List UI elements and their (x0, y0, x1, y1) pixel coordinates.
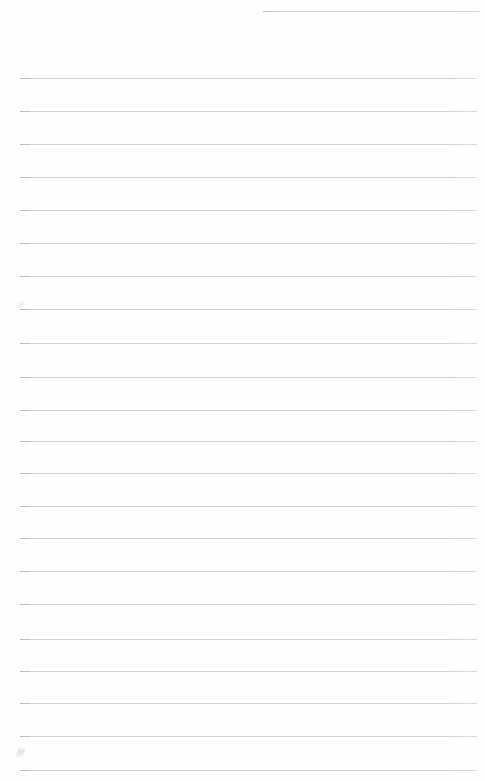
ruled-line (20, 736, 477, 737)
ruled-line (20, 343, 477, 344)
paper-surface (0, 0, 485, 781)
ruled-line (20, 538, 477, 539)
ruled-line (20, 78, 477, 79)
ruled-line (20, 473, 477, 474)
ruled-line (20, 377, 477, 378)
ruled-line (20, 276, 477, 277)
ruled-line (20, 410, 477, 411)
ruled-line (263, 11, 480, 12)
ruled-line (20, 144, 477, 145)
ruled-line (20, 639, 477, 640)
ruled-line (20, 243, 477, 244)
ruled-line (20, 177, 477, 178)
ruled-line (20, 571, 477, 572)
ruled-line (20, 671, 477, 672)
ruled-line (20, 703, 477, 704)
ruled-line (20, 770, 477, 771)
ruled-line (20, 604, 477, 605)
ruled-line (20, 441, 477, 442)
ruled-line (20, 309, 477, 310)
ruled-line (20, 210, 477, 211)
ruled-line (20, 111, 477, 112)
ruled-line (20, 506, 477, 507)
scanned-page (0, 0, 485, 781)
